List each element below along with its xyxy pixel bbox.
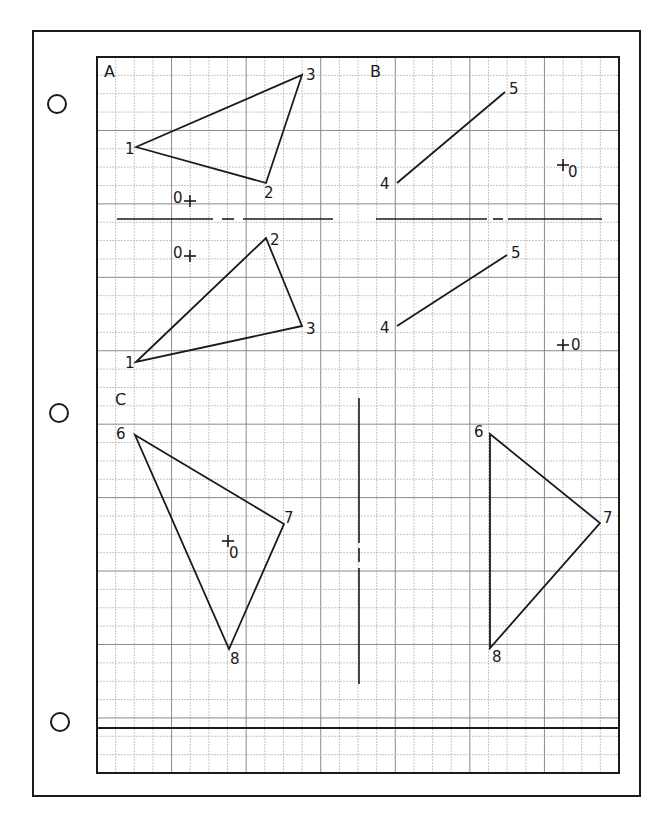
- vertex-label: 8: [492, 648, 502, 666]
- center-label: 0: [229, 544, 239, 562]
- vertex-label: 4: [380, 319, 390, 337]
- vertex-label: 1: [125, 140, 135, 158]
- vertex-label: 7: [603, 509, 613, 527]
- segment-B-original: 45: [380, 80, 519, 193]
- center-label: 0: [571, 336, 581, 354]
- vertex-label: 2: [264, 184, 274, 202]
- vertex-label: 8: [230, 650, 240, 668]
- vertex-label: 4: [380, 175, 390, 193]
- vertex-label: 7: [284, 509, 294, 527]
- vertex-label: 3: [306, 66, 316, 84]
- center-label: 0: [568, 163, 578, 181]
- section-label: A: [104, 62, 115, 81]
- triangle-outline: [135, 435, 284, 649]
- vertex-label: 5: [509, 80, 519, 98]
- worksheet: 1231234545678678 00000 ABC: [0, 0, 659, 821]
- line-segment: [397, 255, 507, 326]
- triangle-C-original: 678: [116, 425, 294, 668]
- grid: [97, 57, 619, 773]
- rotation-center: 0: [557, 336, 581, 354]
- triangle-outline: [136, 238, 302, 362]
- vertex-label: 3: [306, 320, 316, 338]
- center-label: 0: [173, 189, 183, 207]
- segment-B-image: 45: [380, 244, 521, 337]
- triangle-outline: [490, 434, 600, 648]
- section-label: C: [115, 390, 126, 409]
- triangle-A-original: 123: [125, 66, 316, 202]
- binder-hole-icon: [48, 95, 66, 113]
- mirror-lines: [117, 219, 602, 684]
- vertex-label: 6: [116, 425, 126, 443]
- center-label: 0: [173, 244, 183, 262]
- binder-hole-icon: [50, 404, 68, 422]
- vertex-label: 2: [270, 231, 280, 249]
- graph-paper-diagram: 1231234545678678 00000 ABC: [0, 0, 659, 821]
- vertex-label: 6: [474, 423, 484, 441]
- section-label: B: [370, 62, 381, 81]
- rotation-center: 0: [557, 159, 578, 181]
- rotation-center: 0: [222, 535, 239, 562]
- vertex-label: 5: [511, 244, 521, 262]
- vertex-label: 1: [125, 354, 135, 372]
- triangle-C-image: 678: [474, 423, 613, 666]
- binder-hole-icon: [51, 713, 69, 731]
